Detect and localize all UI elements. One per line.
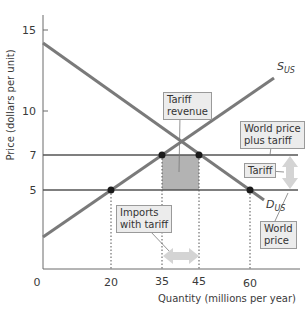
tariff-revenue-label: Tariff revenue bbox=[163, 92, 212, 120]
demand-curve bbox=[43, 43, 264, 200]
x-tick-60: 60 bbox=[243, 277, 257, 290]
demand-label: DUS bbox=[266, 198, 285, 213]
tariff-label: Tariff bbox=[244, 163, 276, 178]
y-axis-title: Price (dollars per unit) bbox=[5, 49, 16, 160]
x-tick-0: 0 bbox=[34, 276, 41, 289]
chart-canvas: 15 10 7 5 0 20 35 45 60 Quantity (millio… bbox=[0, 0, 308, 310]
world-price-label: World price bbox=[260, 221, 297, 249]
y-tick-10: 10 bbox=[22, 105, 36, 118]
tariff-revenue-area bbox=[162, 155, 199, 190]
y-tick-5: 5 bbox=[30, 184, 37, 197]
imports-with-tariff-label: Imports with tariff bbox=[116, 205, 172, 233]
tariff-arrow-icon bbox=[282, 156, 298, 189]
world-price-plus-tariff-label: World price plus tariff bbox=[240, 121, 305, 149]
x-axis-title: Quantity (millions per year) bbox=[158, 293, 296, 304]
supply-label: SUS bbox=[277, 60, 295, 75]
x-tick-35: 35 bbox=[155, 275, 169, 288]
y-tick-15: 15 bbox=[22, 24, 36, 37]
x-tick-20: 20 bbox=[104, 276, 118, 289]
x-tick-45: 45 bbox=[192, 275, 206, 288]
y-tick-7: 7 bbox=[30, 149, 37, 162]
